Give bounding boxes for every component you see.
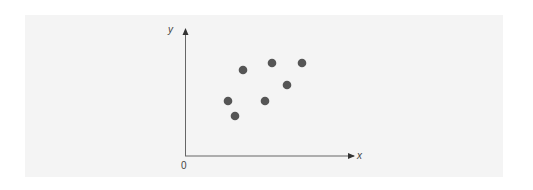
data-point [224,97,233,106]
data-points [224,59,307,121]
data-point [239,66,248,75]
data-point [261,97,270,106]
origin-label: 0 [181,160,187,171]
data-point [298,59,307,68]
x-axis-label: x [357,150,362,161]
data-point [268,59,277,68]
data-point [283,81,292,90]
y-axis-label: y [168,24,173,35]
data-point [231,112,240,121]
scatter-plot [0,0,533,190]
